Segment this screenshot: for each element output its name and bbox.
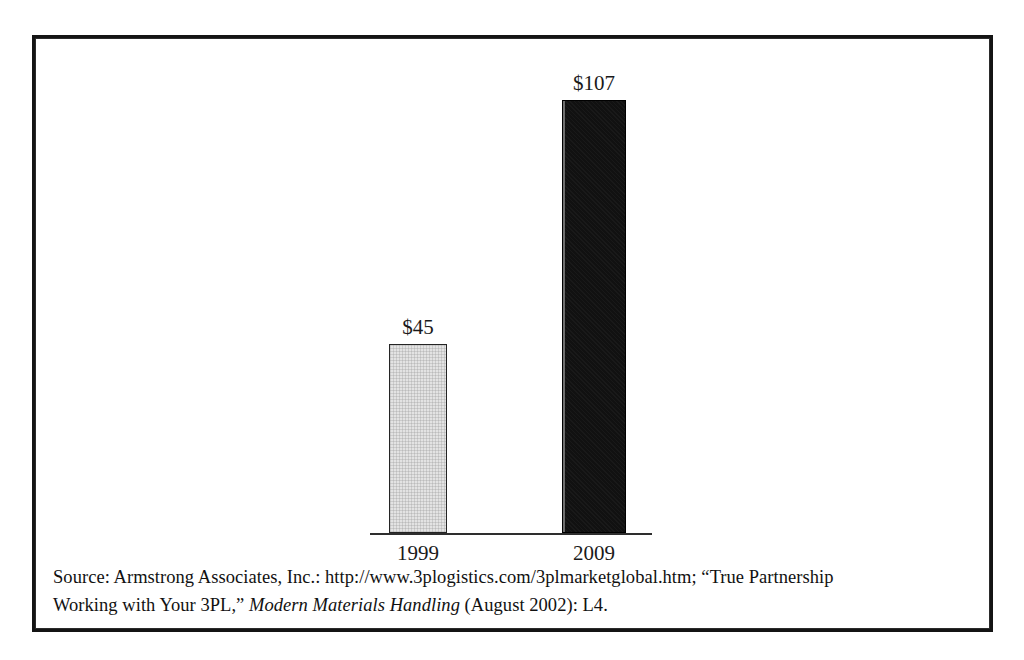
bar-chart-plot-area: $45 1999 $107 2009 xyxy=(36,39,995,539)
figure-frame: $45 1999 $107 2009 Source: Armstrong Ass… xyxy=(32,35,993,632)
bar-1999[interactable] xyxy=(389,344,447,533)
x-axis-line xyxy=(370,533,652,535)
bar-value-label-2009: $107 xyxy=(562,73,626,94)
bar-2009[interactable] xyxy=(562,100,626,533)
source-note-line-1: Source: Armstrong Associates, Inc.: http… xyxy=(53,563,973,591)
source-note-line-2-suffix: (August 2002): L4. xyxy=(460,595,608,615)
x-tick-label-1999: 1999 xyxy=(379,543,457,564)
source-note-journal-title: Modern Materials Handling xyxy=(249,595,460,615)
source-note-line-1-text: Source: Armstrong Associates, Inc.: http… xyxy=(53,567,834,587)
bar-value-label-1999: $45 xyxy=(389,317,447,338)
source-note-line-2: Working with Your 3PL,” Modern Materials… xyxy=(53,591,973,619)
source-note: Source: Armstrong Associates, Inc.: http… xyxy=(53,563,973,619)
source-note-line-2-prefix: Working with Your 3PL,” xyxy=(53,595,249,615)
figure-inner-border: $45 1999 $107 2009 Source: Armstrong Ass… xyxy=(35,38,990,629)
x-tick-label-2009: 2009 xyxy=(554,543,634,564)
